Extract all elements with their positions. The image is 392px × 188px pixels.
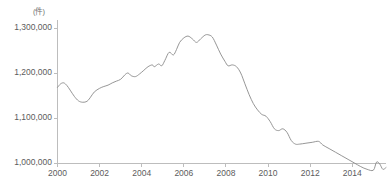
- chart-container: (件) 1,000,0001,100,0001,200,0001,300,000…: [0, 0, 392, 188]
- x-axis-tick-label: 2010: [253, 168, 283, 178]
- x-axis-tick-label: 2008: [211, 168, 241, 178]
- y-axis-tick-label: 1,000,000: [0, 158, 52, 167]
- x-axis-tick-label: 2012: [295, 168, 325, 178]
- line-chart-plot: [0, 0, 392, 188]
- x-axis-tick-label: 2006: [169, 168, 199, 178]
- y-axis-tick-label: 1,200,000: [0, 68, 52, 77]
- data-line-series-1: [58, 35, 387, 171]
- x-axis-tick-label: 2000: [43, 168, 73, 178]
- y-axis-tick-label: 1,100,000: [0, 113, 52, 122]
- x-axis-tick-label: 2002: [85, 168, 115, 178]
- x-axis-tick-label: 2004: [127, 168, 157, 178]
- x-axis-tick-label: 2014: [337, 168, 367, 178]
- y-axis-tick-label: 1,300,000: [0, 23, 52, 32]
